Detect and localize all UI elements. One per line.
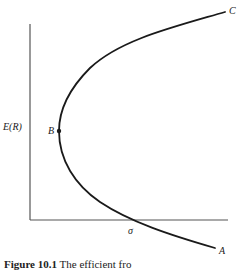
frontier-curve [59,12,225,248]
figure-caption: Figure 10.1 The efficient fro [4,258,131,270]
caption-text: The efficient fro [60,258,132,270]
point-b-label: B [48,126,54,136]
point-c-label: C [229,6,236,16]
y-axis-label: E(R) [3,122,22,132]
point-a-label: A [219,246,225,256]
caption-number: Figure 10.1 [4,258,57,270]
point-b-marker [57,129,61,133]
x-axis-label: σ [128,226,133,236]
